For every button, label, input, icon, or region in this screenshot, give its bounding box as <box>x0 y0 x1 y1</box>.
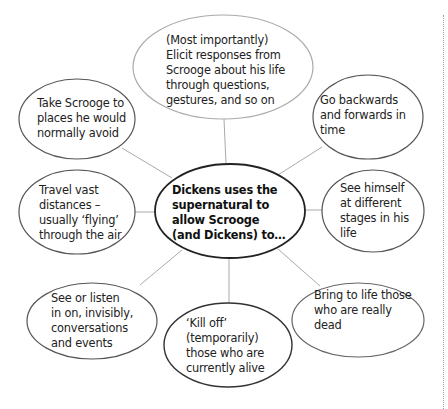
connector-time-travel <box>278 147 322 175</box>
node-kill-off-label: ‘Kill off’ (temporarily) those who are c… <box>186 316 265 376</box>
node-time-travel-label: Go backwards and forwards in time <box>320 93 406 138</box>
connector-listen-in <box>140 250 182 285</box>
node-see-himself-label: See himself at different stages in his l… <box>340 181 409 241</box>
connector-bring-to-life <box>278 249 320 286</box>
node-travel-distances-label: Travel vast distances – usually ‘flying’… <box>39 183 122 243</box>
node-bring-to-life-label: Bring to life those who are really dead <box>314 288 412 333</box>
node-elicit-label: (Most importantly) Elicit responses from… <box>166 33 285 108</box>
node-take-places-label: Take Scrooge to places he would normally… <box>37 96 126 141</box>
connector-elicit <box>224 119 226 164</box>
node-listen-in-label: See or listen in on, invisibly, conversa… <box>51 291 133 351</box>
page-margin-dotted-border <box>443 15 444 409</box>
connector-take-places <box>122 148 172 178</box>
center-label: Dickens uses the supernatural to allow S… <box>172 183 286 243</box>
